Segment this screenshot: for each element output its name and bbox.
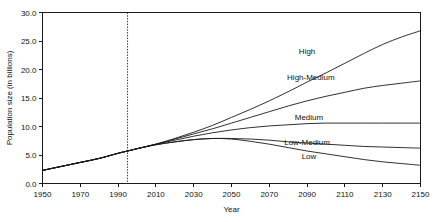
plot-frame	[43, 13, 421, 184]
y-tick-label: 15.0	[21, 94, 37, 103]
x-tick-label: 2050	[223, 190, 241, 199]
series-label-medium: Medium	[295, 113, 324, 122]
series-label-low-medium: Low-Medium	[284, 138, 330, 147]
y-tick-label: 25.0	[21, 37, 37, 46]
x-tick-label: 1950	[34, 190, 52, 199]
y-tick-label: 30.0	[21, 9, 37, 18]
population-projection-chart: 0.05.010.015.020.025.030.019501970199020…	[0, 0, 437, 222]
x-tick-label: 2130	[374, 190, 392, 199]
x-tick-label: 2110	[336, 190, 354, 199]
x-tick-label: 2090	[298, 190, 316, 199]
series-line-high	[43, 31, 421, 171]
x-tick-label: 1970	[71, 190, 89, 199]
x-axis-title: Year	[223, 205, 240, 214]
series-label-low: Low	[302, 152, 317, 161]
x-tick-label: 2030	[185, 190, 203, 199]
x-tick-label: 2150	[412, 190, 430, 199]
y-tick-label: 0.0	[25, 180, 37, 189]
series-line-low	[43, 138, 421, 170]
x-tick-label: 1990	[109, 190, 127, 199]
series-line-low-medium	[43, 138, 421, 170]
y-tick-label: 20.0	[21, 66, 37, 75]
series-line-high-medium	[43, 81, 421, 170]
chart-canvas: 0.05.010.015.020.025.030.019501970199020…	[0, 0, 437, 222]
series-label-high-medium: High-Medium	[287, 73, 335, 82]
series-label-high: High	[299, 47, 315, 56]
y-tick-label: 5.0	[25, 151, 37, 160]
y-tick-label: 10.0	[21, 123, 37, 132]
y-axis-title: Population size (in billions)	[5, 50, 14, 145]
x-tick-label: 2070	[260, 190, 278, 199]
x-tick-label: 2010	[147, 190, 165, 199]
